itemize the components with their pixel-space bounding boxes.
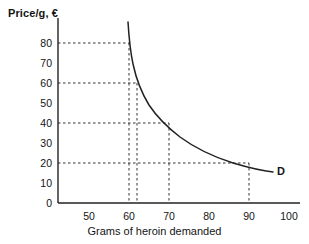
y-tick-20: 20	[30, 158, 52, 169]
y-tick-30: 30	[30, 138, 52, 149]
y-tick-10: 10	[30, 178, 52, 189]
axes	[58, 18, 300, 203]
guide-lines	[58, 43, 249, 203]
y-tick-50: 50	[30, 98, 52, 109]
x-tick-70: 70	[156, 211, 182, 222]
demand-curve	[128, 22, 273, 172]
y-tick-0: 0	[30, 198, 52, 209]
x-tick-80: 80	[196, 211, 222, 222]
x-tick-60: 60	[116, 211, 142, 222]
y-tick-60: 60	[30, 78, 52, 89]
demand-curve-label: D	[277, 166, 285, 177]
y-tick-80: 80	[30, 38, 52, 49]
y-tick-40: 40	[30, 118, 52, 129]
x-tick-90: 90	[236, 211, 262, 222]
x-axis-title: Grams of heroin demanded	[0, 226, 309, 237]
demand-curve-chart: Price/g, € Grams of heroin demanded 80 7…	[0, 0, 309, 244]
x-tick-50: 50	[76, 211, 102, 222]
x-tick-100: 100	[276, 211, 302, 222]
y-tick-70: 70	[30, 58, 52, 69]
y-axis-title: Price/g, €	[8, 8, 58, 19]
